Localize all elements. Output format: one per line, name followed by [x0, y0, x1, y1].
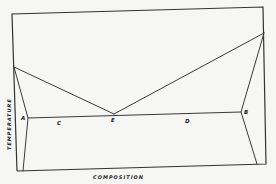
- label-e: E: [111, 117, 115, 123]
- eutectic-line: [28, 112, 241, 118]
- diagram-canvas: A C E D B COMPOSITION TEMPERATURE: [0, 0, 276, 184]
- liquidus-left: [14, 67, 114, 114]
- label-b: B: [244, 109, 248, 115]
- y-axis-label: TEMPERATURE: [6, 98, 12, 150]
- liquidus-right: [114, 33, 264, 114]
- eutectic-phase-diagram: A C E D B COMPOSITION TEMPERATURE: [0, 0, 276, 184]
- x-axis-label: COMPOSITION: [93, 174, 144, 180]
- label-a: A: [20, 115, 25, 121]
- label-c: C: [57, 120, 61, 126]
- diagram-frame: [12, 7, 266, 171]
- solidus-right: [241, 33, 264, 164]
- label-d: D: [185, 118, 190, 124]
